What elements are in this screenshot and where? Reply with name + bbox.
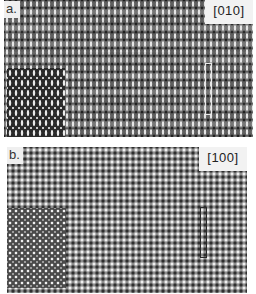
panel-label-a: a. (4, 1, 20, 18)
simulated-image-inset-b (7, 208, 66, 288)
unit-cell-outline-a (205, 63, 212, 115)
unit-cell-outline-b (200, 207, 207, 258)
panel-label-b: b. (7, 147, 23, 164)
simulated-image-inset-a (7, 68, 65, 137)
zone-axis-label-a: [010] (205, 0, 253, 24)
zone-axis-label-b: [100] (199, 147, 247, 171)
contrast-band (4, 52, 253, 66)
